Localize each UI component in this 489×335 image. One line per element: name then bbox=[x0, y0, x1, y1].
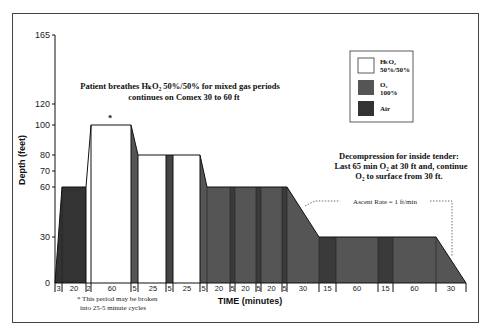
legend-swatch-o2 bbox=[358, 80, 374, 95]
segment-air-60ft-c bbox=[282, 187, 287, 283]
legend-air-label: Air bbox=[380, 105, 390, 113]
ytick-165: 165 bbox=[35, 30, 50, 40]
legend-swatch-air bbox=[358, 101, 374, 116]
ytick-0: 0 bbox=[45, 278, 50, 288]
xtick: 60 bbox=[410, 284, 418, 293]
ytick-70: 70 bbox=[40, 166, 50, 176]
patient-annotation-line1: Patient breathes HₖO₂ 50%/50% for mixed … bbox=[80, 81, 280, 91]
ytick-120: 120 bbox=[35, 99, 50, 109]
xtick: 60 bbox=[108, 284, 116, 293]
xtick: 15 bbox=[323, 284, 331, 293]
dive-profile-chart: 0 30 60 70 80 100 120 165 Depth (feet) 3… bbox=[0, 0, 489, 335]
y-axis bbox=[52, 35, 55, 283]
xtick: 5 bbox=[132, 284, 136, 293]
segment-heo2-80ft-b bbox=[173, 155, 200, 283]
xtick: 30 bbox=[447, 284, 455, 293]
xtick: 25 bbox=[149, 284, 157, 293]
segment-o2-60ft-c bbox=[261, 187, 282, 283]
ytick-100: 100 bbox=[35, 120, 50, 130]
xtick: 30 bbox=[299, 284, 307, 293]
xtick: 5 bbox=[230, 284, 234, 293]
xtick: 15 bbox=[381, 284, 389, 293]
xtick: 20 bbox=[267, 284, 275, 293]
xtick: 5 bbox=[201, 284, 205, 293]
segment-o2-80ft bbox=[166, 155, 173, 283]
footnote-line2: into 25-5 minute cycles bbox=[80, 304, 146, 312]
segment-o2-60ft-b bbox=[235, 187, 256, 283]
xtick: 20 bbox=[215, 284, 223, 293]
xtick: 20 bbox=[70, 284, 78, 293]
segment-heo2-100ft bbox=[86, 125, 131, 283]
segment-o2-30ft-a bbox=[336, 237, 378, 283]
segment-air-30ft-a bbox=[319, 237, 336, 283]
x-tick-labels: 3 20 2 60 5 25 5 25 5 20 5 20 5 20 5 30 … bbox=[56, 284, 455, 293]
decomp-annotation-line1: Decompression for inside tender: bbox=[339, 151, 459, 161]
legend-o2-line2: 100% bbox=[380, 89, 398, 97]
segment-heo2-80ft-a bbox=[138, 155, 166, 283]
xtick: 5 bbox=[256, 284, 260, 293]
segment-air-descent bbox=[55, 187, 86, 283]
xtick: 3 bbox=[56, 284, 60, 293]
xtick: 2 bbox=[86, 284, 90, 293]
xtick: 25 bbox=[183, 284, 191, 293]
xtick: 5 bbox=[282, 284, 286, 293]
ascent-rate-label: Ascent Rate = 1 ft/min bbox=[353, 198, 417, 206]
y-axis-title: Depth (feet) bbox=[17, 135, 27, 185]
segment-o2-60ft-a bbox=[207, 187, 230, 283]
segment-air-60ft-b bbox=[256, 187, 261, 283]
decomp-annotation-line2: Last 65 min O₂ at 30 ft and, continue bbox=[334, 161, 467, 171]
ytick-60: 60 bbox=[40, 182, 50, 192]
x-axis-title: TIME (minutes) bbox=[218, 296, 283, 306]
xtick: 60 bbox=[353, 284, 361, 293]
legend-o2-line1: O₂ bbox=[380, 81, 388, 89]
legend: HₖO₂ 50%/50% O₂ 100% Air bbox=[350, 51, 413, 122]
patient-annotation-line2: continues on Comex 30 to 60 ft bbox=[128, 92, 240, 102]
ytick-80: 80 bbox=[40, 150, 50, 160]
legend-heo2-line2: 50%/50% bbox=[380, 66, 410, 74]
y-tick-labels: 0 30 60 70 80 100 120 165 bbox=[35, 30, 50, 288]
footnote-line1: * This period may be broken bbox=[77, 295, 158, 303]
segment-air-30ft-b bbox=[378, 237, 393, 283]
legend-swatch-heo2 bbox=[358, 58, 374, 73]
legend-heo2-line1: HₖO₂ bbox=[380, 58, 396, 66]
xtick: 5 bbox=[167, 284, 171, 293]
segment-o2-30ft-b bbox=[393, 237, 436, 283]
decomp-annotation-line3: O₂ to surface from 30 ft. bbox=[355, 171, 442, 181]
segment-o2-ascent-60 bbox=[200, 155, 207, 283]
asterisk-marker: * bbox=[108, 113, 112, 123]
xtick: 20 bbox=[241, 284, 249, 293]
segment-air-60ft-a bbox=[230, 187, 235, 283]
ytick-30: 30 bbox=[40, 232, 50, 242]
